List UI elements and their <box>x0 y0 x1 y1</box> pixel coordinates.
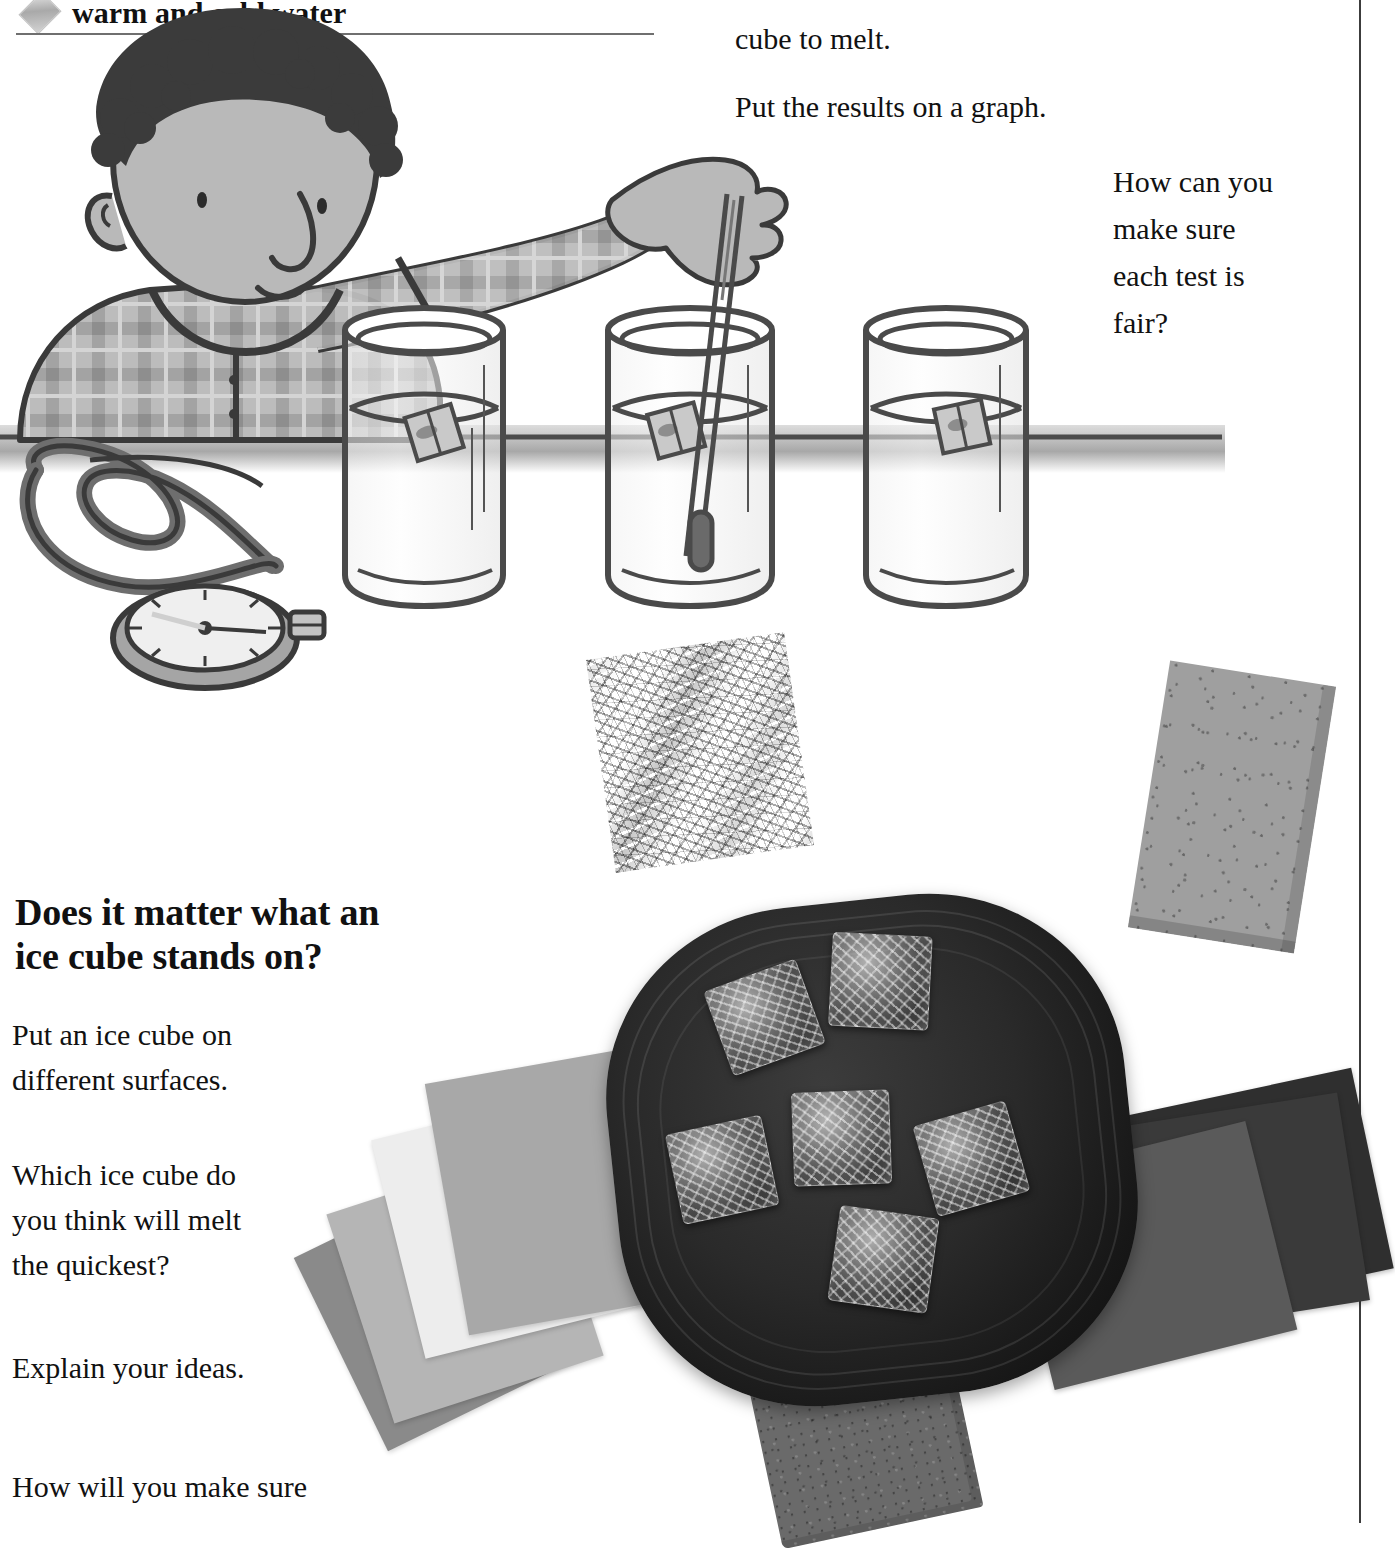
aluminium-foil-square <box>586 632 814 873</box>
foam-sponge-block <box>1128 661 1336 954</box>
stopwatch <box>28 446 324 688</box>
paragraph-which-ice-cube: Which ice cube do you think will melt th… <box>12 1152 241 1287</box>
ice-cube-in-beaker-middle <box>647 403 705 459</box>
section-heading: Does it matter what an ice cube stands o… <box>15 890 535 978</box>
tray-ice-cube <box>791 1089 892 1186</box>
beaker-right <box>866 308 1026 606</box>
text-fair-test-question: How can you make sure each test is fair? <box>1113 158 1273 346</box>
paragraph-put-ice-cube: Put an ice cube on different surfaces. <box>12 1012 232 1102</box>
table-surface <box>0 425 1225 473</box>
text-put-results-on-graph: Put the results on a graph. <box>735 84 1047 129</box>
diamond-bullet-icon <box>18 0 61 35</box>
boy-figure <box>20 8 786 440</box>
paragraph-how-will-you-make-sure: How will you make sure <box>12 1464 307 1509</box>
tray-ice-cube <box>828 932 933 1031</box>
tray-ice-cube <box>827 1205 939 1314</box>
ice-cube-in-beaker-left <box>405 404 464 461</box>
thermometer <box>686 194 742 570</box>
beaker-left <box>345 308 503 606</box>
bullet-heading-label: warm and cold water <box>72 0 346 30</box>
horizontal-rule <box>16 33 654 35</box>
beaker-middle <box>608 194 772 606</box>
bullet-heading-row: warm and cold water <box>26 0 646 30</box>
black-tray <box>587 874 1156 1426</box>
ice-cube-in-beaker-right <box>934 399 990 453</box>
paragraph-explain-ideas: Explain your ideas. <box>12 1345 244 1390</box>
text-cube-to-melt: cube to melt. <box>735 16 891 61</box>
